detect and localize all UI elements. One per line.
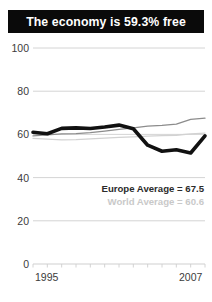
x-tick-label-2007: 2007	[179, 271, 202, 283]
x-tick-label-1995: 1995	[35, 271, 58, 283]
legend-item-europe-average: Europe Average = 67.5	[102, 183, 204, 196]
economic-freedom-chart-figure: The economy is 59.3% free 020406080100 1…	[0, 0, 212, 302]
series-line-europe-average	[33, 118, 205, 136]
gridlines-group	[33, 48, 205, 264]
chart-plot-area	[0, 0, 212, 302]
y-tick-label-80: 80	[1, 85, 29, 97]
legend-item-world-average: World Average = 60.6	[102, 196, 204, 209]
y-tick-label-60: 60	[1, 128, 29, 140]
series-lines-group	[33, 118, 205, 153]
chart-legend: Europe Average = 67.5 World Average = 60…	[102, 183, 204, 208]
y-tick-label-100: 100	[1, 42, 29, 54]
y-tick-label-0: 0	[1, 258, 29, 270]
y-tick-label-40: 40	[1, 172, 29, 184]
y-tick-label-20: 20	[1, 215, 29, 227]
